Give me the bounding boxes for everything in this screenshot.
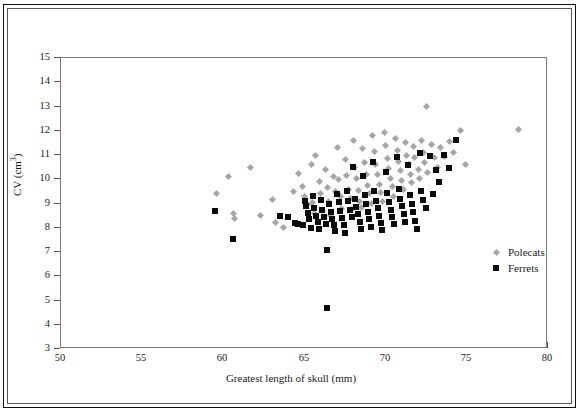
- data-point-polecats: [410, 143, 417, 150]
- data-point-polecats: [322, 166, 329, 173]
- y-axis-tick-label: 7: [10, 246, 50, 256]
- data-point-polecats: [445, 138, 452, 145]
- data-point-ferrets: [352, 196, 358, 202]
- data-point-polecats: [421, 159, 428, 166]
- data-point-ferrets: [357, 219, 363, 225]
- data-point-ferrets: [396, 186, 402, 192]
- data-point-ferrets: [441, 152, 447, 158]
- data-point-ferrets: [342, 230, 348, 236]
- data-point-polecats: [355, 187, 362, 194]
- data-point-polecats: [294, 170, 301, 177]
- data-point-polecats: [324, 184, 331, 191]
- data-point-polecats: [369, 132, 376, 139]
- data-point-ferrets: [414, 226, 420, 232]
- data-point-polecats: [379, 198, 386, 205]
- data-point-polecats: [403, 151, 410, 158]
- data-point-ferrets: [321, 214, 327, 220]
- data-point-ferrets: [386, 199, 392, 205]
- data-point-ferrets: [384, 190, 390, 196]
- data-point-ferrets: [316, 226, 322, 232]
- data-point-ferrets: [388, 207, 394, 213]
- data-point-polecats: [424, 168, 431, 175]
- data-point-polecats: [377, 189, 384, 196]
- data-point-polecats: [387, 174, 394, 181]
- data-point-ferrets: [427, 153, 433, 159]
- data-point-ferrets: [315, 219, 321, 225]
- data-point-ferrets: [334, 191, 340, 197]
- data-point-ferrets: [407, 192, 413, 198]
- data-point-ferrets: [430, 191, 436, 197]
- data-point-ferrets: [378, 220, 384, 226]
- x-axis-title: Greatest length of skull (mm): [0, 372, 582, 384]
- data-point-ferrets: [344, 188, 350, 194]
- data-point-ferrets: [360, 173, 366, 179]
- legend-label-ferrets: Ferrets: [508, 262, 539, 274]
- data-point-polecats: [343, 172, 350, 179]
- data-point-ferrets: [376, 213, 382, 219]
- data-point-polecats: [462, 161, 469, 168]
- ferret-square-icon: [489, 265, 503, 271]
- data-point-ferrets: [347, 207, 353, 213]
- data-point-polecats: [225, 173, 232, 180]
- data-point-ferrets: [305, 210, 311, 216]
- data-point-ferrets: [394, 154, 400, 160]
- data-point-ferrets: [433, 167, 439, 173]
- data-point-ferrets: [373, 198, 379, 204]
- data-point-ferrets: [311, 205, 317, 211]
- data-point-polecats: [418, 137, 425, 144]
- data-point-ferrets: [328, 209, 334, 215]
- data-point-polecats: [428, 141, 435, 148]
- data-point-ferrets: [300, 222, 306, 228]
- data-point-ferrets: [399, 203, 405, 209]
- data-point-polecats: [213, 190, 220, 197]
- data-point-polecats: [359, 145, 366, 152]
- x-axis-tick-label: 75: [446, 352, 486, 363]
- x-axis-tick-label: 70: [365, 352, 405, 363]
- data-point-ferrets: [453, 137, 459, 143]
- x-axis-tick-label: 55: [121, 352, 161, 363]
- data-point-polecats: [333, 144, 340, 151]
- data-point-ferrets: [324, 305, 330, 311]
- data-point-polecats: [280, 224, 287, 231]
- data-point-ferrets: [383, 169, 389, 175]
- data-point-polecats: [450, 149, 457, 156]
- data-point-ferrets: [358, 226, 364, 232]
- data-point-ferrets: [371, 188, 377, 194]
- x-axis-tick-label: 60: [202, 352, 242, 363]
- y-axis-tick-mark: [54, 348, 60, 349]
- data-point-ferrets: [285, 214, 291, 220]
- data-point-ferrets: [336, 199, 342, 205]
- data-point-polecats: [376, 181, 383, 188]
- data-point-ferrets: [436, 179, 442, 185]
- data-point-polecats: [290, 188, 297, 195]
- y-axis-tick-label: 6: [10, 270, 50, 280]
- figure-scatter-plot: 3456789101112131415 50556065707580 CV (c…: [0, 0, 582, 420]
- data-point-polecats: [350, 137, 357, 144]
- data-point-polecats: [457, 127, 464, 134]
- data-point-ferrets: [375, 205, 381, 211]
- data-point-ferrets: [379, 227, 385, 233]
- y-axis-tick-label: 4: [10, 319, 50, 329]
- data-point-ferrets: [345, 198, 351, 204]
- data-point-ferrets: [365, 209, 371, 215]
- data-point-ferrets: [230, 236, 236, 242]
- data-point-ferrets: [339, 215, 345, 221]
- data-point-polecats: [231, 214, 238, 221]
- data-point-ferrets: [308, 225, 314, 231]
- legend-label-polecats: Polecats: [508, 246, 545, 258]
- legend-item-polecats: Polecats: [489, 244, 545, 260]
- x-axis-tick-label: 80: [527, 352, 567, 363]
- data-point-ferrets: [389, 214, 395, 220]
- data-point-polecats: [384, 155, 391, 162]
- data-point-ferrets: [402, 219, 408, 225]
- data-point-ferrets: [310, 193, 316, 199]
- data-point-ferrets: [423, 205, 429, 211]
- data-point-polecats: [268, 196, 275, 203]
- data-point-ferrets: [306, 216, 312, 222]
- data-point-ferrets: [405, 162, 411, 168]
- data-point-ferrets: [355, 211, 361, 217]
- data-point-polecats: [380, 128, 387, 135]
- y-axis-tick-label: 13: [10, 101, 50, 111]
- data-point-ferrets: [418, 188, 424, 194]
- data-point-ferrets: [362, 192, 368, 198]
